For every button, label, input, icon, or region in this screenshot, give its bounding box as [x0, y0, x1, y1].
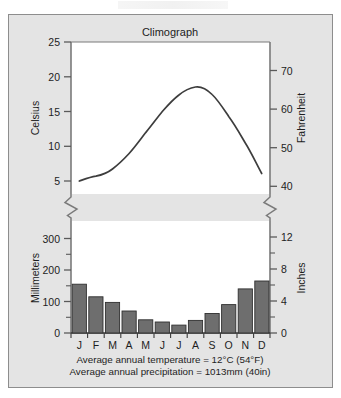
bar-january	[72, 284, 86, 333]
inches-tick-marks	[270, 237, 277, 333]
climograph-svg: Climograph 25 20 15 10 5 70 60 50 40	[9, 15, 332, 387]
chart-title: Climograph	[142, 26, 198, 38]
celsius-tick-10: 10	[48, 140, 60, 152]
axis-break-left	[65, 194, 77, 221]
millimeters-tick-200: 200	[42, 264, 60, 276]
bar-march	[105, 302, 119, 333]
bar-august	[188, 320, 202, 333]
axis-break-right	[264, 194, 276, 221]
fahrenheit-axis-label: Fahrenheit	[295, 93, 307, 143]
celsius-tick-15: 15	[48, 106, 60, 118]
inches-tick-12: 12	[281, 231, 293, 243]
bar-april	[122, 311, 136, 333]
temperature-plot-area	[71, 42, 270, 194]
inches-axis-label: Inches	[295, 263, 307, 294]
bar-november	[238, 289, 252, 333]
inches-tick-0: 0	[281, 327, 287, 339]
month-label-dec: D	[258, 339, 266, 351]
bar-july	[172, 325, 186, 333]
millimeters-tick-0: 0	[54, 327, 60, 339]
bar-june	[155, 322, 169, 333]
top-margin-strip	[0, 0, 341, 13]
cropped-header-text	[118, 1, 228, 9]
month-label-feb: F	[93, 339, 99, 351]
bar-february	[89, 297, 103, 333]
month-label-oct: O	[225, 339, 233, 351]
month-label-jun: J	[160, 339, 165, 351]
month-label-mar: M	[108, 339, 117, 351]
caption-temperature: Average annual temperature = 12°C (54°F)	[76, 354, 263, 365]
celsius-tick-20: 20	[48, 71, 60, 83]
bar-october	[222, 305, 236, 333]
month-label-nov: N	[242, 339, 250, 351]
celsius-tick-marks	[64, 42, 71, 181]
celsius-axis-label: Celsius	[29, 101, 41, 135]
month-label-apr: A	[126, 339, 133, 351]
bar-september	[205, 314, 219, 334]
millimeters-axis-label: Millimeters	[29, 253, 41, 303]
millimeters-tick-marks	[64, 239, 71, 334]
month-label-sep: S	[209, 339, 216, 351]
fahrenheit-tick-40: 40	[281, 180, 293, 192]
millimeters-tick-100: 100	[42, 296, 60, 308]
caption-precipitation: Average annual precipitation = 1013mm (4…	[69, 366, 270, 377]
celsius-tick-5: 5	[54, 175, 60, 187]
bar-may	[139, 320, 153, 333]
month-label-jul: J	[176, 339, 181, 351]
millimeters-tick-300: 300	[42, 233, 60, 245]
month-label-aug: A	[192, 339, 199, 351]
month-label-jan: J	[77, 339, 82, 351]
climograph-figure: Climograph 25 20 15 10 5 70 60 50 40	[8, 14, 333, 388]
fahrenheit-tick-70: 70	[281, 65, 293, 77]
inches-tick-8: 8	[281, 263, 287, 275]
celsius-tick-25: 25	[48, 36, 60, 48]
fahrenheit-tick-marks	[270, 71, 277, 187]
bar-december	[255, 281, 269, 333]
month-label-may: M	[141, 339, 150, 351]
fahrenheit-tick-60: 60	[281, 103, 293, 115]
inches-tick-4: 4	[281, 295, 287, 307]
fahrenheit-tick-50: 50	[281, 142, 293, 154]
